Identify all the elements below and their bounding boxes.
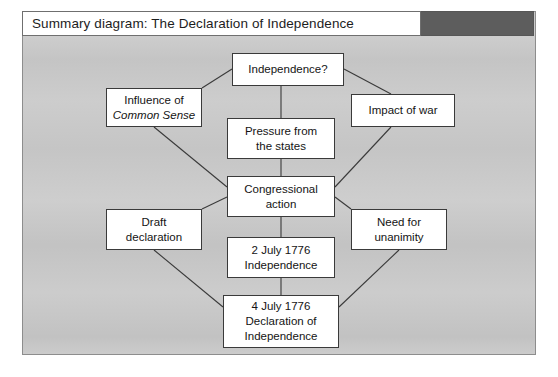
- diagram-title-bar: Summary diagram: The Declaration of Inde…: [22, 11, 536, 36]
- connector-need_for_unanimity-to-four_july_1776: [339, 250, 399, 307]
- page-title: Summary diagram: The Declaration of Inde…: [32, 16, 354, 31]
- node-four_july_1776: 4 July 1776Declaration ofIndependence: [223, 295, 339, 348]
- connector-draft_declaration-to-congressional_action: [202, 197, 227, 209]
- node-influence_common_sense: Influence ofCommon Sense: [106, 88, 202, 127]
- title-field: Summary diagram: The Declaration of Inde…: [22, 11, 421, 36]
- node-pressure_from_states-line-1: Pressure from: [245, 124, 317, 139]
- node-two_july_1776: 2 July 1776Independence: [227, 237, 335, 278]
- node-influence_common_sense-line-1: Influence of: [124, 93, 183, 108]
- connector-impact_of_war-to-congressional_action: [335, 127, 391, 187]
- title-color-swatch: [421, 11, 534, 36]
- node-independence_q-line-1: Independence?: [248, 62, 327, 77]
- node-independence_q: Independence?: [232, 53, 344, 86]
- connector-independence_q-to-impact_of_war: [344, 69, 391, 94]
- node-congressional_action: Congressionalaction: [227, 176, 335, 217]
- node-congressional_action-line-2: action: [266, 197, 297, 212]
- node-need_for_unanimity-line-2: unanimity: [374, 230, 423, 245]
- node-congressional_action-line-1: Congressional: [244, 182, 318, 197]
- node-four_july_1776-line-3: Independence: [245, 329, 318, 344]
- node-pressure_from_states-line-2: the states: [256, 139, 306, 154]
- node-four_july_1776-line-1: 4 July 1776: [252, 299, 311, 314]
- diagram-canvas: Independence?Influence ofCommon SenseImp…: [22, 11, 536, 355]
- node-two_july_1776-line-1: 2 July 1776: [252, 243, 311, 258]
- connector-congressional_action-to-need_for_unanimity: [335, 197, 351, 209]
- node-two_july_1776-line-2: Independence: [245, 258, 318, 273]
- node-impact_of_war: Impact of war: [351, 94, 455, 127]
- connector-draft_declaration-to-four_july_1776: [154, 250, 223, 307]
- node-draft_declaration-line-2: declaration: [126, 230, 182, 245]
- node-impact_of_war-line-1: Impact of war: [368, 103, 437, 118]
- node-pressure_from_states: Pressure fromthe states: [227, 118, 335, 159]
- node-need_for_unanimity-line-1: Need for: [377, 215, 421, 230]
- node-draft_declaration-line-1: Draft: [142, 215, 167, 230]
- node-influence_common_sense-line-2: Common Sense: [113, 108, 195, 123]
- connector-influence_common_sense-to-independence_q: [202, 69, 232, 88]
- node-four_july_1776-line-2: Declaration of: [246, 314, 317, 329]
- node-need_for_unanimity: Need forunanimity: [351, 209, 447, 250]
- connector-influence_common_sense-to-congressional_action: [154, 127, 227, 187]
- node-draft_declaration: Draftdeclaration: [106, 209, 202, 250]
